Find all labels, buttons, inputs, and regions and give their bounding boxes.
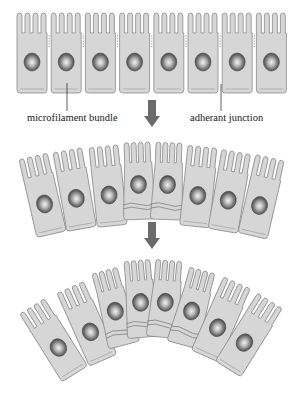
down-arrow-icon bbox=[144, 100, 160, 127]
row-strong-bending bbox=[20, 259, 283, 382]
down-arrow-icon bbox=[144, 222, 160, 249]
cell bbox=[85, 13, 115, 93]
cell bbox=[17, 13, 47, 93]
epithelial-invagination-diagram bbox=[0, 0, 304, 396]
cell bbox=[256, 13, 286, 93]
label-microfilament-bundle: microfilament bundle bbox=[27, 112, 118, 123]
cell bbox=[51, 13, 81, 93]
row-flat-epithelium bbox=[17, 13, 286, 93]
constricted-cell bbox=[150, 142, 185, 220]
label-adherant-junction: adherant junction bbox=[190, 112, 263, 123]
cell bbox=[120, 13, 150, 93]
cell bbox=[154, 13, 184, 93]
cell bbox=[222, 13, 252, 93]
constricted-cell bbox=[121, 142, 156, 220]
cell bbox=[188, 13, 218, 93]
